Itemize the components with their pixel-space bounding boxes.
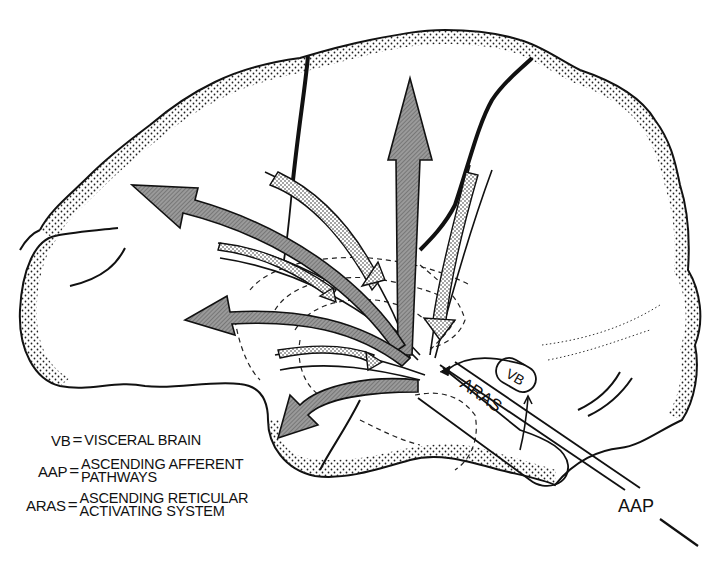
aap-label: AAP [618,496,654,516]
legend-row-aras: ARAS = ASCENDING RETICULAR ACTIVATING SY… [26,492,248,518]
efferent-arrows [132,78,432,438]
afferent-arrow-lowerfrontal [278,346,374,362]
legend-definition: ASCENDING RETICULAR ACTIVATING SYSTEM [80,492,249,518]
legend-abbr: ARAS [26,497,66,514]
efferent-arrow-upward [388,78,432,355]
legend-row-vb: VB = VISCERAL BRAIN [51,430,248,450]
legend-abbr: VB [51,432,70,449]
afferent-arrow-parietal [433,172,478,320]
legend-equals: = [68,495,78,515]
legend: VB = VISCERAL BRAIN AAP = ASCENDING AFFE… [22,430,248,526]
legend-line: VISCERAL BRAIN [84,434,201,447]
legend-equals: = [69,461,79,481]
legend-line: ACTIVATING SYSTEM [80,505,249,518]
legend-definition: ASCENDING AFFERENT PATHWAYS [81,458,243,484]
legend-row-aap: AAP = ASCENDING AFFERENT PATHWAYS [38,458,248,484]
legend-definition: VISCERAL BRAIN [84,434,201,447]
aap-pointer: AAP [618,496,698,546]
efferent-arrow-temporal [278,379,418,438]
legend-abbr: AAP [38,463,67,480]
legend-equals: = [72,430,82,450]
legend-line: PATHWAYS [81,471,243,484]
